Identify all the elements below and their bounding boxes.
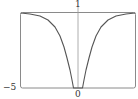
- plot-area: [0, 0, 138, 99]
- y-tick-bottom: −5: [3, 83, 16, 92]
- y-tick-top: 1: [75, 0, 81, 9]
- x-tick-zero: 0: [75, 90, 81, 99]
